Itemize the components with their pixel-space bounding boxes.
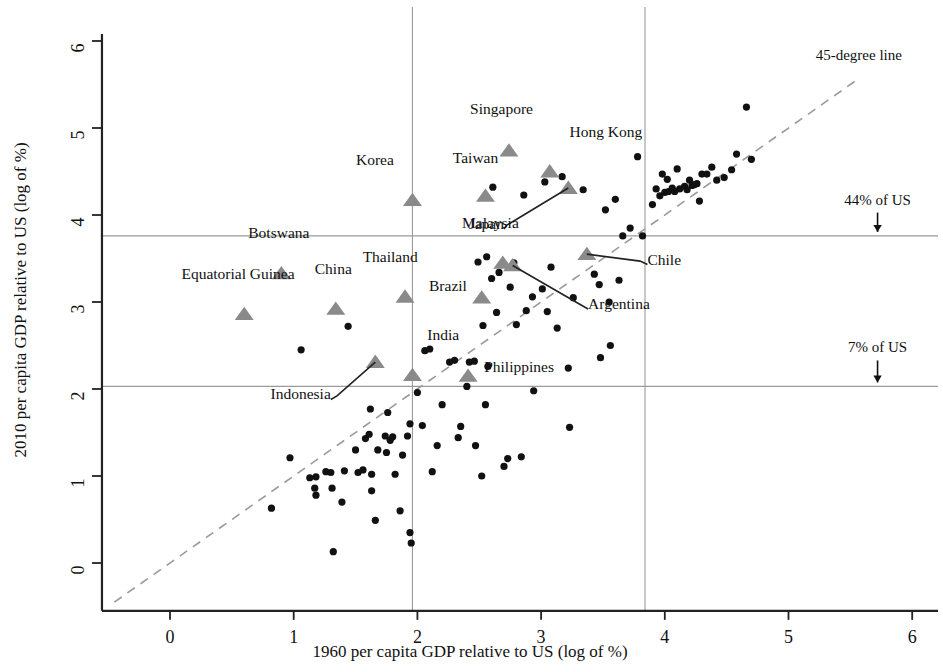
country-label-botswana: Botswana bbox=[248, 224, 309, 241]
y-tick-label-1: 1 bbox=[68, 479, 88, 488]
x-axis-title: 1960 per capita GDP relative to US (log … bbox=[312, 642, 627, 661]
data-point bbox=[612, 196, 619, 203]
data-point bbox=[399, 452, 406, 459]
data-point bbox=[396, 507, 403, 514]
data-point bbox=[520, 191, 527, 198]
x-tick-label-1: 1 bbox=[289, 627, 298, 647]
data-point bbox=[696, 197, 703, 204]
country-label-korea: Korea bbox=[356, 151, 394, 168]
data-point bbox=[434, 442, 441, 449]
data-point bbox=[639, 232, 646, 239]
data-point bbox=[311, 485, 318, 492]
data-point bbox=[653, 185, 660, 192]
annotation-7-of-us: 7% of US bbox=[848, 339, 907, 355]
data-point bbox=[596, 281, 603, 288]
data-point bbox=[619, 232, 626, 239]
data-point bbox=[341, 467, 348, 474]
data-point bbox=[479, 322, 486, 329]
data-point bbox=[406, 420, 413, 427]
data-point bbox=[559, 173, 566, 180]
data-point bbox=[483, 253, 490, 260]
data-point bbox=[327, 469, 334, 476]
data-point bbox=[429, 468, 436, 475]
data-point bbox=[565, 365, 572, 372]
data-point bbox=[488, 275, 495, 282]
data-point bbox=[330, 548, 337, 555]
annotation-44-of-us: 44% of US bbox=[844, 192, 911, 208]
data-point bbox=[541, 178, 548, 185]
data-point bbox=[345, 323, 352, 330]
x-tick-label-5: 5 bbox=[784, 627, 793, 647]
country-label-argentina: Argentina bbox=[588, 295, 650, 312]
data-point bbox=[408, 539, 415, 546]
data-point bbox=[602, 206, 609, 213]
data-point bbox=[743, 104, 750, 111]
x-tick-label-4: 4 bbox=[660, 627, 669, 647]
data-point bbox=[615, 277, 622, 284]
data-point bbox=[478, 472, 485, 479]
country-label-china: China bbox=[315, 260, 352, 277]
data-point bbox=[384, 409, 391, 416]
data-point bbox=[489, 184, 496, 191]
data-point bbox=[392, 471, 399, 478]
data-point bbox=[733, 151, 740, 158]
data-point bbox=[566, 424, 573, 431]
data-point bbox=[312, 492, 319, 499]
y-tick-label-2: 2 bbox=[68, 392, 88, 401]
y-tick-label-5: 5 bbox=[68, 131, 88, 140]
data-point bbox=[463, 383, 470, 390]
data-point bbox=[649, 201, 656, 208]
data-point bbox=[451, 357, 458, 364]
data-point bbox=[474, 258, 481, 265]
data-point bbox=[664, 176, 671, 183]
data-point bbox=[580, 186, 587, 193]
data-point bbox=[472, 442, 479, 449]
data-point bbox=[286, 454, 293, 461]
country-label-brazil: Brazil bbox=[429, 277, 467, 294]
data-point bbox=[607, 342, 614, 349]
data-point bbox=[523, 307, 530, 314]
data-point bbox=[547, 264, 554, 271]
data-point bbox=[268, 505, 275, 512]
data-point bbox=[482, 401, 489, 408]
data-point bbox=[597, 354, 604, 361]
scatter-plot-svg: 01234560123456 SingaporeHong KongTaiwanK… bbox=[0, 0, 943, 672]
data-point bbox=[518, 453, 525, 460]
country-label-india: India bbox=[427, 326, 459, 343]
country-label-malaysia: Malaysia bbox=[462, 214, 519, 231]
y-tick-label-6: 6 bbox=[68, 44, 88, 53]
data-point bbox=[374, 446, 381, 453]
data-point bbox=[359, 466, 366, 473]
data-point bbox=[368, 487, 375, 494]
data-point bbox=[372, 517, 379, 524]
data-point bbox=[439, 401, 446, 408]
data-point bbox=[728, 166, 735, 173]
data-point bbox=[500, 463, 507, 470]
data-point bbox=[591, 271, 598, 278]
y-tick-label-4: 4 bbox=[68, 218, 88, 227]
country-label-singapore: Singapore bbox=[470, 100, 533, 117]
data-point bbox=[634, 153, 641, 160]
country-label-equatorial-guinea: Equatorial Guinea bbox=[181, 265, 294, 282]
data-point bbox=[389, 433, 396, 440]
country-label-thailand: Thailand bbox=[363, 248, 418, 265]
data-point bbox=[708, 164, 715, 171]
country-label-chile: Chile bbox=[647, 251, 681, 268]
data-point bbox=[367, 405, 374, 412]
data-point bbox=[493, 309, 500, 316]
data-point bbox=[406, 529, 413, 536]
data-point bbox=[328, 485, 335, 492]
y-axis-title: 2010 per capita GDP relative to US (log … bbox=[11, 142, 30, 457]
x-tick-label-6: 6 bbox=[908, 627, 917, 647]
data-point bbox=[495, 269, 502, 276]
data-point bbox=[507, 284, 514, 291]
data-point bbox=[368, 471, 375, 478]
data-point bbox=[627, 224, 634, 231]
data-point bbox=[366, 431, 373, 438]
data-point bbox=[539, 285, 546, 292]
annotation-forty-five-degree-line: 45-degree line bbox=[816, 47, 903, 63]
x-tick-label-0: 0 bbox=[166, 627, 175, 647]
data-point bbox=[414, 389, 421, 396]
data-point bbox=[529, 293, 536, 300]
y-tick-label-3: 3 bbox=[68, 305, 88, 314]
